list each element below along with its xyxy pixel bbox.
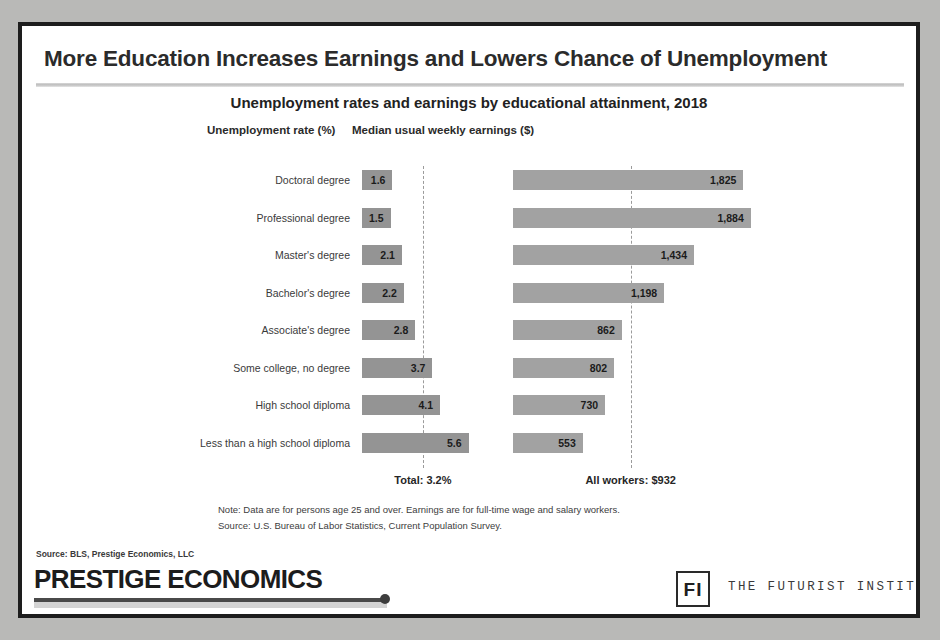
bar-value-label: 553 [558,433,576,453]
chart-row: Doctoral degree1.61,825 [22,169,916,191]
bar-value-label: 3.7 [411,358,426,378]
bar-earnings: 553 [513,433,583,453]
slide-frame: More Education Increases Earnings and Lo… [18,22,920,618]
bar-value-label: 2.2 [382,283,397,303]
category-label: Master's degree [22,244,350,266]
chart-row: Less than a high school diploma5.6553 [22,432,916,454]
bar-value-label: 4.1 [418,395,433,415]
footer-source: Source: BLS, Prestige Economics, LLC [36,549,194,559]
category-label: Less than a high school diploma [22,432,350,454]
chart-row: Some college, no degree3.7802 [22,357,916,379]
bar-value-label: 802 [590,358,608,378]
bar-unemployment: 1.6 [362,170,392,190]
total-earnings-label: All workers: $932 [585,474,676,486]
chart-row: Professional degree1.51,884 [22,207,916,229]
bar-earnings: 1,825 [513,170,743,190]
bar-unemployment: 5.6 [362,433,469,453]
bar-unemployment: 2.8 [362,320,415,340]
futurist-institute-wordmark: THE FUTURIST INSTITUTE [728,580,920,594]
chart-row: Bachelor's degree2.21,198 [22,282,916,304]
bar-value-label: 2.1 [380,245,395,265]
bar-earnings: 1,884 [513,208,751,228]
bar-value-label: 2.8 [394,320,409,340]
category-label: Associate's degree [22,319,350,341]
bar-unemployment: 3.7 [362,358,432,378]
category-label: High school diploma [22,394,350,416]
bar-earnings: 862 [513,320,622,340]
bar-value-label: 730 [581,395,599,415]
chart-row: Associate's degree2.8862 [22,319,916,341]
bar-value-label: 1,825 [710,170,736,190]
brand-rule-shadow [34,602,387,608]
category-label: Some college, no degree [22,357,350,379]
bar-value-label: 1.6 [371,170,386,190]
chart-source: Source: U.S. Bureau of Labor Statistics,… [218,520,502,531]
category-label: Professional degree [22,207,350,229]
bar-value-label: 1,884 [718,208,744,228]
bar-earnings: 730 [513,395,605,415]
category-label: Doctoral degree [22,169,350,191]
bar-value-label: 1,434 [661,245,687,265]
prestige-economics-logo: PRESTIGE ECONOMICS [34,564,322,595]
bar-unemployment: 1.5 [362,208,391,228]
bar-unemployment: 2.2 [362,283,404,303]
futurist-institute-badge-icon: FI [676,571,710,607]
brand-dot [380,594,390,604]
bar-earnings: 1,198 [513,283,664,303]
bar-unemployment: 2.1 [362,245,402,265]
chart-note: Note: Data are for persons age 25 and ov… [218,504,620,515]
bar-value-label: 1,198 [631,283,657,303]
bar-value-label: 5.6 [447,433,462,453]
bar-unemployment: 4.1 [362,395,440,415]
chart-row: High school diploma4.1730 [22,394,916,416]
category-label: Bachelor's degree [22,282,350,304]
chart-row: Master's degree2.11,434 [22,244,916,266]
bar-value-label: 1.5 [369,208,384,228]
bar-value-label: 862 [597,320,615,340]
total-unemployment-label: Total: 3.2% [394,474,451,486]
bar-earnings: 1,434 [513,245,694,265]
bar-earnings: 802 [513,358,614,378]
